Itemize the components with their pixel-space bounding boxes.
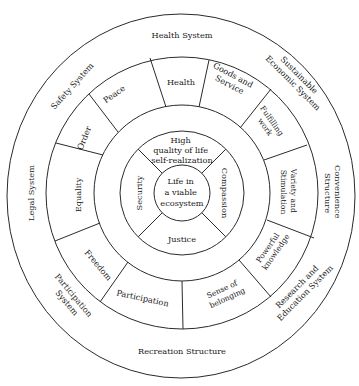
outer-ring-label-safety-system: Safety System <box>48 60 95 111</box>
center-label: Life in a viable ecosystem <box>160 176 204 208</box>
concentric-diagram: Life in a viable ecosystem High quality … <box>0 0 359 386</box>
middle-ring-label-order: Order <box>75 125 94 152</box>
inner-ring-label-high-quality-of-life: High quality of life self-realization <box>151 135 213 165</box>
middle-ring-label-health: Health <box>167 77 196 87</box>
outer-ring-label-health-system: Health System <box>152 30 213 40</box>
middle-ring-label-powerful-knowledge: Powerful knowledge <box>253 227 292 272</box>
outer-ring-label-legal-system: Legal System <box>26 165 36 221</box>
middle-ring-label-participation: Participation <box>116 288 171 309</box>
outer-ring-label-recreation-structure: Recreation Structure <box>138 346 226 356</box>
middle-ring-label-variety-and-stimulation: Variety and Stimulation <box>279 168 298 215</box>
middle-ring-label-peace: Peace <box>101 83 127 105</box>
middle-ring-label-fulfilling-work: Fulfilling work <box>251 104 287 145</box>
outer-ring-label-sustainable-economic-system: Sustainable Economic System <box>264 46 330 112</box>
outer-ring-label-convenience-structure: Convenience Structure <box>323 165 343 221</box>
inner-ring-label-compassion: Compassion <box>220 168 230 219</box>
middle-ring-label-sense-of-belonging: Sense of belonging <box>204 277 247 310</box>
middle-ring-label-equality: Equality <box>73 177 83 212</box>
inner-ring-label-justice: Justice <box>167 234 196 244</box>
inner-ring-label-security: Security <box>134 175 144 210</box>
middle-ring-label-freedom: Freedom <box>83 248 115 283</box>
